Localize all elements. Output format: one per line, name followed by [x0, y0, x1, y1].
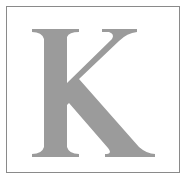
- letter-k-glyph: [7, 7, 181, 174]
- letter-tile: K: [6, 6, 180, 173]
